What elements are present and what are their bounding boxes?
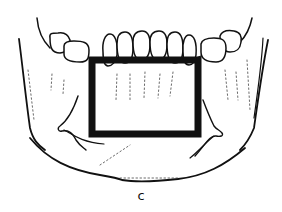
tooth	[64, 41, 89, 62]
tooth	[201, 38, 226, 62]
osteotomy-rectangle	[92, 60, 198, 134]
jaw-lower-border	[30, 138, 245, 182]
jaw-right-ramus-outline	[240, 40, 268, 150]
jaw-left-inner-ramus	[37, 18, 50, 48]
jaw-left-ramus-outline	[19, 39, 45, 150]
left-nerve-line	[58, 96, 86, 150]
tooth	[150, 31, 167, 60]
tooth	[133, 31, 150, 60]
mandible-illustration	[0, 0, 282, 212]
figure-label: c	[0, 188, 282, 203]
